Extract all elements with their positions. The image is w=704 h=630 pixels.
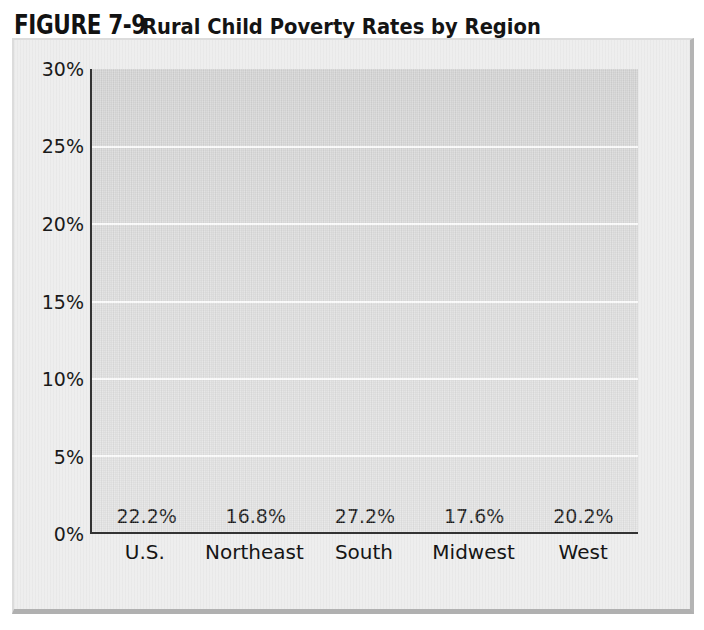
x-tick-label: Midwest [419,540,529,574]
y-tick-label: 5% [20,446,84,468]
y-tick-label: 30% [20,58,84,80]
x-axis-labels: U.S.NortheastSouthMidwestWest [90,540,638,574]
bar-value-label: 27.2% [335,505,395,527]
x-tick-label: Northeast [200,540,310,574]
bar-value-label: 22.2% [116,505,176,527]
plot-area: 22.2%16.8%27.2%17.6%20.2% [90,69,638,534]
y-tick-label: 10% [20,368,84,390]
y-tick-label: 15% [20,291,84,313]
bar-slot: 27.2% [310,69,419,532]
chart-frame: 30%25%20%15%10%5%0% 22.2%16.8%27.2%17.6%… [12,38,694,614]
bar-slot: 17.6% [420,69,529,532]
y-tick-label: 0% [20,523,84,545]
figure-caption: Rural Child Poverty Rates by Region [142,16,541,38]
bar-value-label: 17.6% [444,505,504,527]
x-tick-label: U.S. [90,540,200,574]
bar-slot: 16.8% [201,69,310,532]
y-tick-label: 25% [20,135,84,157]
x-tick-label: West [528,540,638,574]
x-tick-label: South [309,540,419,574]
bar-value-label: 20.2% [553,505,613,527]
figure-title: FIGURE 7-9 Rural Child Poverty Rates by … [14,2,571,38]
bar-slot: 20.2% [529,69,638,532]
bar-value-label: 16.8% [226,505,286,527]
y-axis-labels: 30%25%20%15%10%5%0% [14,69,84,534]
figure-number: FIGURE 7-9 [14,11,146,38]
y-tick-label: 20% [20,213,84,235]
bar-slot: 22.2% [92,69,201,532]
